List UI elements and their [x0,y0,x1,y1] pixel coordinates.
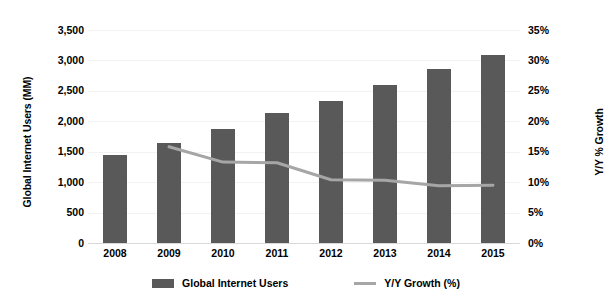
y-axis-right-tick-label: 30% [528,55,549,66]
chart-figure: Global Internet Users (MM) Y/Y % Growth … [0,0,612,307]
legend-item-yy-growth: Y/Y Growth (%) [354,277,460,289]
x-axis-tick-label: 2014 [412,247,466,259]
y-axis-left-tick-label: 1,500 [58,146,84,157]
bar [319,101,343,243]
bar [211,129,235,243]
chart-legend: Global Internet Users Y/Y Growth (%) [0,277,612,289]
x-axis-tick-label: 2015 [466,247,520,259]
y-axis-left-tick-label: 2,000 [58,116,84,127]
x-axis-tick-label: 2013 [358,247,412,259]
y-axis-right-tick-label: 15% [528,146,549,157]
x-axis-tick-label: 2009 [142,247,196,259]
bar [427,69,451,243]
legend-label-global-internet-users: Global Internet Users [182,277,288,289]
y-axis-left-tick-label: 2,500 [58,85,84,96]
y-axis-right-tick-label: 20% [528,116,549,127]
y-axis-right-tick-label: 5% [528,207,543,218]
line-swatch-icon [354,282,376,285]
bar [103,155,127,243]
bar [481,55,505,243]
bar [265,113,289,243]
y-axis-left-tick-label: 3,000 [58,55,84,66]
y-axis-left-tick-label: 3,500 [58,25,84,36]
y-axis-left-ticks: 05001,0001,5002,0002,5003,0003,500 [38,0,84,307]
plot-area [88,30,520,243]
x-axis-tick-label: 2012 [304,247,358,259]
bar [373,85,397,243]
y-axis-right-tick-label: 25% [528,85,549,96]
y-axis-left-tick-label: 1,000 [58,177,84,188]
legend-label-yy-growth: Y/Y Growth (%) [384,277,460,289]
y-axis-right-tick-label: 0% [528,238,543,249]
bar [157,143,181,243]
y-axis-right-tick-label: 10% [528,177,549,188]
bar-series-global-internet-users [88,30,520,243]
x-axis-tick-label: 2011 [250,247,304,259]
y-axis-left-tick-label: 0 [78,238,84,249]
x-axis-tick-label: 2008 [88,247,142,259]
y-axis-right-ticks: 0%5%10%15%20%25%30%35% [528,0,574,307]
gridline [88,243,520,244]
x-axis-tick-label: 2010 [196,247,250,259]
x-axis-ticks: 20082009201020112012201320142015 [88,247,520,263]
y-axis-right-tick-label: 35% [528,25,549,36]
y-axis-right-title: Y/Y % Growth [593,62,605,222]
legend-item-global-internet-users: Global Internet Users [152,277,288,289]
y-axis-left-title: Global Internet Users (MM) [21,62,33,222]
bar-swatch-icon [152,279,174,288]
y-axis-left-tick-label: 500 [66,207,84,218]
